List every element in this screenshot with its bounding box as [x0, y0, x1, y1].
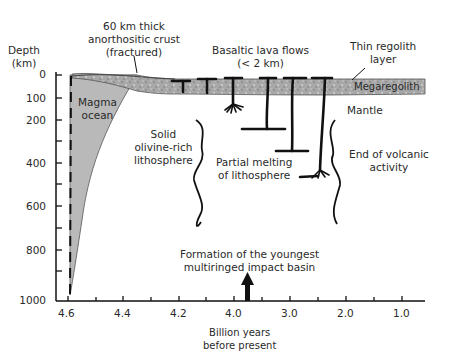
lava-flows-label-line2: (< 2 km) — [212, 57, 309, 70]
x-axis-title: Billion years before present — [203, 326, 276, 352]
regolith-label-line1: Thin regolith — [350, 40, 416, 53]
crust-label-line3: (fractured) — [88, 46, 180, 59]
partial-melting-label: Partial melting of lithosphere — [216, 156, 292, 182]
lithosphere-label-line3: lithosphere — [134, 154, 193, 167]
impact-basin-label-line1: Formation of the youngest — [180, 248, 319, 261]
magma-ocean-label-line1: Magma — [78, 96, 117, 109]
megaregolith-label: Megaregolith — [354, 80, 420, 93]
x-axis-title-line1: Billion years — [203, 326, 276, 339]
partial-melting-label-line2: of lithosphere — [216, 169, 292, 182]
impact-basin-label-line2: multiringed impact basin — [180, 261, 319, 274]
y-tick-800: 800 — [16, 244, 46, 256]
y-tick-400: 400 — [16, 157, 46, 169]
x-tick-1.0: 1.0 — [393, 307, 410, 319]
crust-label: 60 km thick anorthositic crust (fracture… — [88, 20, 180, 59]
x-tick-4.0: 4.0 — [225, 307, 242, 319]
partial-melting-label-line1: Partial melting — [216, 156, 292, 169]
regolith-label: Thin regolith layer — [350, 40, 416, 66]
mantle-label: Mantle — [347, 104, 383, 117]
x-tick-4.2: 4.2 — [170, 307, 187, 319]
y-axis-title-line1: Depth — [8, 44, 40, 57]
end-volcanic-brace — [330, 120, 340, 224]
lava-flows-label-line1: Basaltic lava flows — [212, 44, 309, 57]
y-tick-600: 600 — [16, 200, 46, 212]
magma-ocean-label: Magma ocean — [78, 96, 117, 122]
x-tick-4.6: 4.6 — [58, 307, 75, 319]
lithosphere-label-line1: Solid — [134, 128, 193, 141]
y-tick-1000: 1000 — [16, 294, 46, 306]
impact-basin-label: Formation of the youngest multiringed im… — [180, 248, 319, 274]
y-tick-100: 100 — [16, 92, 46, 104]
y-tick-0: 0 — [16, 68, 46, 80]
x-tick-2.0: 2.0 — [337, 307, 354, 319]
lithosphere-label-line2: olivine-rich — [134, 141, 193, 154]
y-tick-200: 200 — [16, 114, 46, 126]
lava-flows-label: Basaltic lava flows (< 2 km) — [212, 44, 309, 70]
regolith-label-line2: layer — [350, 53, 416, 66]
x-tick-4.4: 4.4 — [114, 307, 131, 319]
crust-label-line2: anorthositic crust — [88, 33, 180, 46]
lithosphere-label: Solid olivine-rich lithosphere — [134, 128, 193, 167]
lithosphere-brace — [194, 120, 203, 226]
x-tick-3.0: 3.0 — [281, 307, 298, 319]
y-axis-title: Depth (km) — [8, 44, 40, 70]
end-volcanic-label-line2: activity — [349, 161, 429, 174]
impact-basin-arrow — [241, 272, 254, 301]
end-volcanic-label-line1: End of volcanic — [349, 148, 429, 161]
crust-label-line1: 60 km thick — [88, 20, 180, 33]
end-volcanic-label: End of volcanic activity — [349, 148, 429, 174]
magma-ocean-label-line2: ocean — [78, 109, 117, 122]
x-axis-title-line2: before present — [203, 339, 276, 352]
